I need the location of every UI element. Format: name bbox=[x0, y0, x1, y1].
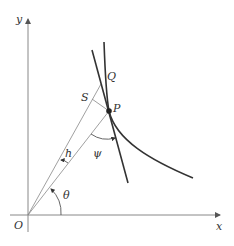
psi-arc bbox=[91, 134, 115, 139]
h-label: h bbox=[65, 147, 72, 160]
point-s-label: S bbox=[81, 91, 89, 104]
y-axis-label: y bbox=[15, 13, 23, 26]
theta-label: θ bbox=[63, 189, 70, 202]
x-axis-label: x bbox=[216, 220, 223, 233]
origin-label: O bbox=[14, 219, 23, 232]
h-arc bbox=[61, 160, 68, 163]
point-p-label: P bbox=[112, 102, 121, 115]
point-p bbox=[106, 108, 112, 114]
psi-label: ψ bbox=[93, 147, 102, 160]
point-q-label: Q bbox=[107, 70, 116, 83]
polar-tangent-diagram: y x O P Q S θ ψ h bbox=[0, 0, 234, 246]
theta-arc bbox=[51, 189, 61, 215]
